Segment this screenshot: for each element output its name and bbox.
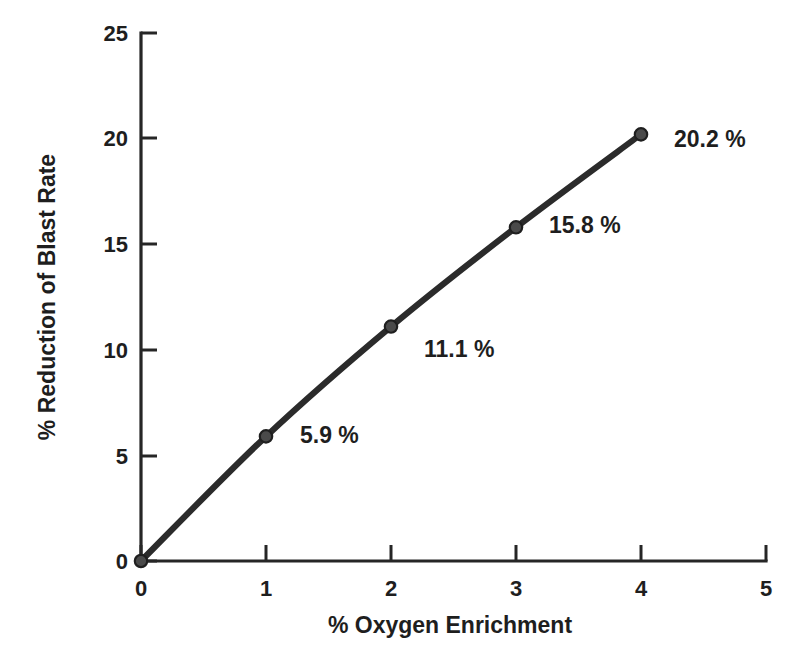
y-tick-label: 0 [116, 549, 128, 574]
x-tick-label: 5 [760, 576, 772, 601]
data-point-4 [635, 128, 647, 140]
y-tick-label: 25 [104, 21, 128, 46]
data-label-4: 20.2 % [674, 126, 746, 152]
x-tick-label: 4 [635, 576, 648, 601]
y-tick-label: 5 [116, 444, 128, 469]
chart-container: 25 20 15 10 5 0 0 1 2 3 4 5 % Oxygen Enr… [0, 0, 796, 657]
x-tick-label: 3 [510, 576, 522, 601]
data-label-1: 5.9 % [300, 422, 359, 448]
y-tick-label: 20 [104, 126, 128, 151]
x-tick-label: 0 [135, 576, 147, 601]
data-point-0 [135, 555, 147, 567]
x-tick-label: 2 [385, 576, 397, 601]
line-chart: 25 20 15 10 5 0 0 1 2 3 4 5 % Oxygen Enr… [0, 0, 796, 657]
y-tick-label: 10 [104, 338, 128, 363]
y-axis-title: % Reduction of Blast Rate [34, 154, 60, 440]
data-label-2: 11.1 % [424, 336, 494, 362]
data-label-3: 15.8 % [549, 212, 621, 238]
x-axis-title: % Oxygen Enrichment [328, 612, 572, 638]
data-point-3 [510, 221, 522, 233]
x-tick-label: 1 [260, 576, 272, 601]
data-point-2 [385, 320, 397, 332]
data-point-1 [260, 430, 272, 442]
y-tick-label: 15 [104, 232, 128, 257]
